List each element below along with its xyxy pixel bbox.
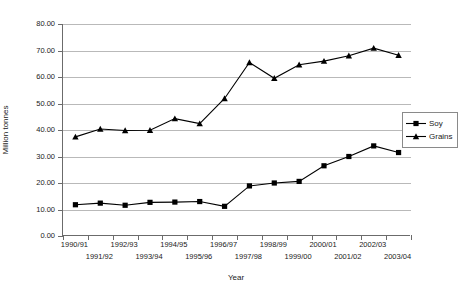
x-axis-tick bbox=[88, 235, 89, 240]
x-axis-tick-label: 1992/93 bbox=[111, 241, 138, 249]
y-axis-tick-label: 20.00 bbox=[36, 179, 55, 187]
x-axis-tick-label: 1993/94 bbox=[135, 253, 162, 261]
y-axis-title: Million tonnes bbox=[2, 106, 10, 155]
triangle-marker-icon bbox=[405, 131, 427, 142]
series-line-grains bbox=[75, 48, 398, 137]
y-axis-tick-label: 50.00 bbox=[36, 100, 55, 108]
y-axis-tick-label: 30.00 bbox=[36, 153, 55, 161]
x-axis-tick-label: 1996/97 bbox=[210, 241, 237, 249]
data-point-soy bbox=[396, 150, 401, 155]
x-axis-tick bbox=[287, 235, 288, 240]
x-axis-tick bbox=[411, 235, 412, 240]
y-axis-tick-label: 10.00 bbox=[36, 206, 55, 214]
x-axis-tick-label: 1999/00 bbox=[285, 253, 312, 261]
data-point-grains bbox=[371, 45, 377, 51]
legend-item-grains: Grains bbox=[405, 130, 454, 143]
x-axis-tick bbox=[386, 235, 387, 240]
line-chart: 0.0010.0020.0030.0040.0050.0060.0070.008… bbox=[0, 0, 464, 296]
y-axis-tick-label: 0.00 bbox=[40, 232, 55, 240]
data-point-soy bbox=[73, 202, 78, 207]
plot-area: 0.0010.0020.0030.0040.0050.0060.0070.008… bbox=[62, 24, 410, 236]
x-axis-tick-label: 1997/98 bbox=[235, 253, 262, 261]
data-point-soy bbox=[346, 154, 351, 159]
legend-label: Soy bbox=[429, 120, 443, 128]
chart-legend: SoyGrains bbox=[402, 112, 458, 148]
y-axis-tick-label: 80.00 bbox=[36, 20, 55, 28]
y-axis-tick-label: 70.00 bbox=[36, 47, 55, 55]
x-axis-tick-label: 2003/04 bbox=[384, 253, 411, 261]
x-axis-tick-label: 2000/01 bbox=[309, 241, 336, 249]
data-point-grains bbox=[172, 115, 178, 121]
data-point-soy bbox=[172, 199, 177, 204]
data-point-soy bbox=[98, 201, 103, 206]
data-point-soy bbox=[147, 200, 152, 205]
x-axis-tick-label: 1994/95 bbox=[160, 241, 187, 249]
x-axis-tick-label: 2002/03 bbox=[359, 241, 386, 249]
data-point-soy bbox=[123, 203, 128, 208]
legend-label: Grains bbox=[429, 133, 453, 141]
x-axis-tick-label: 1998/99 bbox=[260, 241, 287, 249]
x-axis-tick-label: 1990/91 bbox=[61, 241, 88, 249]
data-point-soy bbox=[272, 180, 277, 185]
data-point-soy bbox=[222, 204, 227, 209]
data-point-soy bbox=[297, 179, 302, 184]
x-axis-tick-label: 1991/92 bbox=[86, 253, 113, 261]
data-point-soy bbox=[197, 199, 202, 204]
x-axis-labels: 1990/911991/921992/931993/941994/951995/… bbox=[62, 241, 410, 269]
data-point-grains bbox=[271, 75, 277, 81]
y-axis-tick-label: 60.00 bbox=[36, 73, 55, 81]
x-axis-tick-label: 2001/02 bbox=[334, 253, 361, 261]
x-axis-tick-label: 1995/96 bbox=[185, 253, 212, 261]
data-point-soy bbox=[321, 163, 326, 168]
data-point-grains bbox=[246, 59, 252, 65]
x-axis-tick bbox=[187, 235, 188, 240]
square-marker-icon bbox=[405, 118, 427, 129]
series-layer bbox=[63, 24, 411, 236]
x-axis-tick bbox=[237, 235, 238, 240]
y-axis-tick-label: 40.00 bbox=[36, 126, 55, 134]
legend-item-soy: Soy bbox=[405, 117, 454, 130]
data-point-soy bbox=[247, 183, 252, 188]
data-point-soy bbox=[371, 143, 376, 148]
x-axis-tick bbox=[336, 235, 337, 240]
x-axis-tick bbox=[138, 235, 139, 240]
x-axis-title: Year bbox=[62, 274, 410, 282]
